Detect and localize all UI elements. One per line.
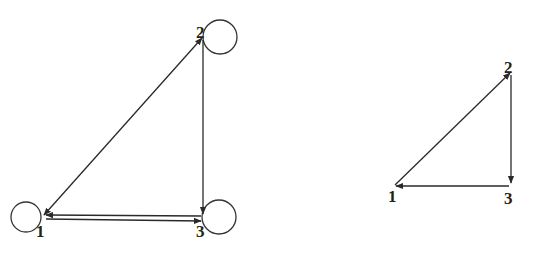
edge-1-2 (44, 38, 202, 215)
edge-1-3 (46, 219, 201, 221)
graph-figure: 1 2 3 1 2 3 (0, 0, 539, 254)
node-label-2: 2 (504, 58, 513, 77)
edge-1-2 (395, 73, 510, 185)
node-label-3: 3 (196, 222, 205, 241)
graph-right: 1 2 3 (388, 58, 513, 208)
edge-3-1 (46, 215, 201, 216)
node-label-2: 2 (196, 23, 205, 42)
self-loop-node-3 (202, 200, 236, 234)
node-label-1: 1 (388, 187, 397, 206)
node-label-3: 3 (504, 189, 513, 208)
node-label-1: 1 (36, 222, 45, 241)
graph-left: 1 2 3 (11, 20, 237, 241)
self-loop-node-2 (203, 20, 237, 54)
